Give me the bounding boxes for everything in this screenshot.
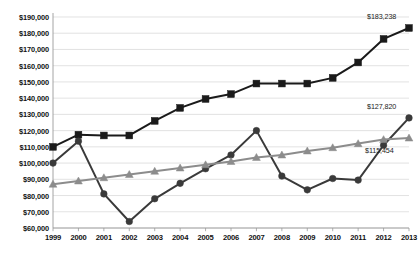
value-label-triangle: $115,454 (365, 146, 394, 155)
x-tick-label: 2003 (147, 233, 163, 242)
x-tick-label: 2012 (376, 233, 392, 242)
x-tick-label: 2005 (198, 233, 214, 242)
x-tick-label: 2000 (70, 233, 86, 242)
x-tick-label: 2010 (325, 233, 341, 242)
x-tick-label: 2008 (274, 233, 290, 242)
x-axis-labels: 1999200020012002200320042005200620072008… (0, 0, 420, 266)
x-tick-label: 2004 (172, 233, 188, 242)
x-tick-label: 2002 (121, 233, 137, 242)
x-tick-label: 1999 (45, 233, 61, 242)
x-tick-label: 2007 (248, 233, 264, 242)
line-chart: $190,000$180,000$170,000$160,000$150,000… (0, 0, 420, 266)
x-tick-label: 2013 (401, 233, 417, 242)
x-tick-label: 2001 (96, 233, 112, 242)
x-tick-label: 2011 (350, 233, 366, 242)
value-label-square: $183,238 (367, 12, 396, 21)
value-label-circle: $127,820 (367, 102, 396, 111)
x-tick-label: 2006 (223, 233, 239, 242)
x-tick-label: 2009 (299, 233, 315, 242)
